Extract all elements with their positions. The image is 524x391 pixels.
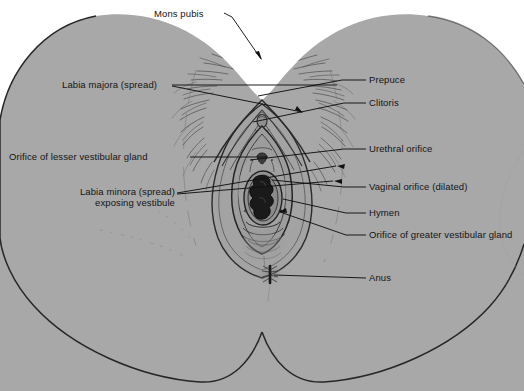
label-urethral-orifice: Urethral orifice — [369, 143, 432, 154]
label-labia-minora: Labia minora (spread) exposing vestibule — [60, 186, 175, 208]
label-clitoris: Clitoris — [369, 97, 399, 108]
label-prepuce: Prepuce — [369, 74, 405, 85]
label-orifice-lesser-vestibular-gland: Orifice of lesser vestibular gland — [9, 151, 148, 162]
label-hymen: Hymen — [369, 207, 400, 218]
label-mons-pubis: Mons pubis — [154, 8, 204, 19]
leader-mons-pubis-hook — [224, 13, 232, 17]
label-orifice-greater-vestibular-gland: Orifice of greater vestibular gland — [369, 229, 512, 240]
label-labia-minora-line1: Labia minora (spread) — [60, 186, 175, 197]
label-labia-majora: Labia majora (spread) — [62, 79, 157, 90]
label-anus: Anus — [369, 272, 391, 283]
anatomy-figure-page: Mons pubis Labia majora (spread) Orifice… — [0, 0, 524, 391]
label-vaginal-orifice: Vaginal orifice (dilated) — [369, 181, 467, 192]
label-labia-minora-line2: exposing vestibule — [60, 197, 175, 208]
